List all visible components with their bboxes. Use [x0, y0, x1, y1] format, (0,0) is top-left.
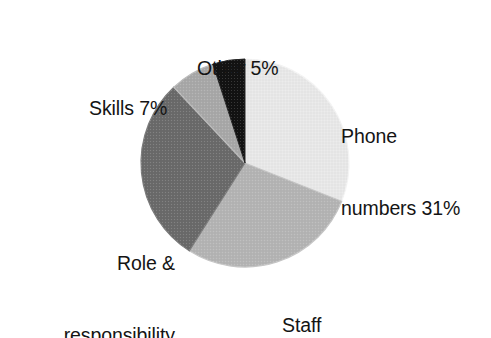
pie-label-other-line1: Other 5% [197, 56, 279, 80]
pie-label-skills-line1: Skills 7% [89, 96, 167, 120]
pie-label-phone-numbers-line1: Phone [341, 124, 460, 148]
pie-label-staff-photos-line1: Staff [282, 313, 384, 337]
pie-label-role-responsibility: Role & responsibility 29% [18, 203, 175, 338]
pie-label-skills: Skills 7% [89, 48, 167, 168]
pie-label-phone-numbers-line2: numbers 31% [341, 196, 460, 220]
pie-label-phone-numbers: Phone numbers 31% [341, 76, 460, 268]
pie-chart-figure: Other 5% Skills 7% Phone numbers 31% Rol… [0, 0, 491, 338]
pie-label-role-responsibility-line2: responsibility [18, 323, 175, 338]
pie-label-other: Other 5% [197, 8, 279, 128]
pie-label-staff-photos: Staff photos 28% [282, 265, 384, 338]
pie-label-role-responsibility-line1: Role & [18, 251, 175, 275]
